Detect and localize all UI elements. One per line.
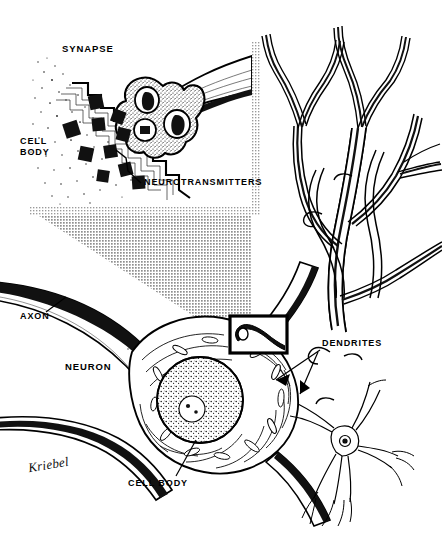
soma-lower-right-process [266, 452, 330, 526]
label-neuron: NEURON [65, 361, 112, 372]
label-cell-body-top: CELL BODY [20, 136, 50, 157]
label-neurotransmitters: NEUROTRANSMITTERS [144, 177, 262, 188]
synapse-detail-inset [22, 33, 260, 215]
illustration-artwork [0, 0, 442, 560]
label-synapse: SYNAPSE [62, 43, 114, 54]
nucleus [157, 357, 243, 443]
label-axon: AXON [20, 311, 50, 322]
nucleolus [179, 396, 205, 422]
magnification-source-box[interactable] [230, 316, 287, 353]
label-dendrites: DENDRITES [322, 338, 382, 349]
neuron-synapse-figure: SYNAPSE CELL BODY NEUROTRANSMITTERS AXON… [0, 0, 442, 560]
label-cell-body-bottom: CELL BODY [128, 478, 188, 489]
